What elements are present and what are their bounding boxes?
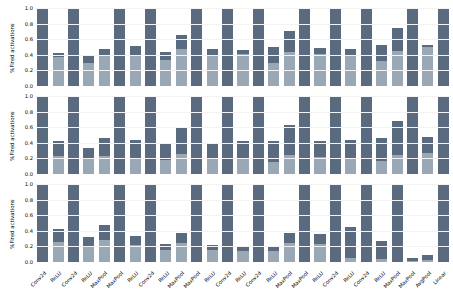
bar-slot — [143, 96, 158, 174]
bar[interactable] — [392, 184, 403, 262]
bar-slot — [312, 8, 327, 86]
bar[interactable] — [130, 235, 141, 262]
bar[interactable] — [83, 148, 94, 174]
x-tick-slot: Conv2d — [220, 269, 235, 299]
bar-slot — [312, 184, 327, 262]
bar-segment-upper — [191, 8, 202, 86]
bar-segment-upper — [160, 52, 171, 61]
bar[interactable] — [176, 127, 187, 174]
bar-slot — [97, 184, 112, 262]
bar[interactable] — [253, 184, 264, 262]
bar[interactable] — [376, 45, 387, 86]
bar-segment-lower — [207, 158, 218, 174]
y-tick-label: 0.6 — [25, 212, 33, 218]
bar-group-panel-1 — [35, 8, 451, 86]
bar[interactable] — [422, 255, 433, 262]
gridline — [35, 143, 451, 144]
bar[interactable] — [299, 8, 310, 86]
bar[interactable] — [284, 233, 295, 262]
bar-slot — [35, 96, 50, 174]
y-tick-label: 0.4 — [25, 52, 33, 58]
bar[interactable] — [222, 96, 233, 174]
bar[interactable] — [222, 8, 233, 86]
bar[interactable] — [268, 47, 279, 86]
bar[interactable] — [37, 8, 48, 86]
bar[interactable] — [376, 241, 387, 262]
bar[interactable] — [207, 245, 218, 262]
bar[interactable] — [160, 52, 171, 86]
bar[interactable] — [438, 8, 449, 86]
bar[interactable] — [407, 96, 418, 174]
bar-segment-upper — [99, 138, 110, 156]
bar-segment-lower — [176, 154, 187, 174]
bar[interactable] — [392, 28, 403, 86]
bar[interactable] — [68, 8, 79, 86]
bar[interactable] — [299, 184, 310, 262]
bar-segment-upper — [37, 184, 48, 262]
bar[interactable] — [422, 45, 433, 86]
bar[interactable] — [392, 121, 403, 174]
bar[interactable] — [438, 96, 449, 174]
bar[interactable] — [68, 96, 79, 174]
bar-segment-upper — [284, 233, 295, 243]
bar[interactable] — [222, 184, 233, 262]
y-tick-label: 0.0 — [25, 83, 33, 89]
bar-slot — [420, 8, 435, 86]
x-tick-label: ReLU — [126, 270, 139, 283]
bar[interactable] — [191, 96, 202, 174]
bar-segment-upper — [176, 233, 187, 243]
bar[interactable] — [114, 8, 125, 86]
bar[interactable] — [253, 96, 264, 174]
bar-segment-upper — [114, 96, 125, 174]
bar[interactable] — [83, 237, 94, 262]
bar[interactable] — [130, 140, 141, 174]
bar[interactable] — [37, 184, 48, 262]
bar[interactable] — [176, 35, 187, 86]
bar-slot — [266, 96, 281, 174]
bar-slot — [328, 96, 343, 174]
bar[interactable] — [68, 184, 79, 262]
bar[interactable] — [345, 140, 356, 174]
bar[interactable] — [314, 48, 325, 86]
bar[interactable] — [130, 46, 141, 86]
bar[interactable] — [345, 227, 356, 262]
bar[interactable] — [330, 184, 341, 262]
bar[interactable] — [145, 184, 156, 262]
bar[interactable] — [284, 125, 295, 174]
bar[interactable] — [361, 96, 372, 174]
bar[interactable] — [330, 96, 341, 174]
bar-slot — [112, 8, 127, 86]
gridline — [35, 55, 451, 56]
bar[interactable] — [145, 96, 156, 174]
bar[interactable] — [330, 8, 341, 86]
bar[interactable] — [37, 96, 48, 174]
bar-segment-upper — [145, 184, 156, 262]
bar[interactable] — [114, 96, 125, 174]
bar-segment-upper — [222, 184, 233, 262]
bar-segment-upper — [314, 234, 325, 244]
bar[interactable] — [407, 8, 418, 86]
bar[interactable] — [299, 96, 310, 174]
subplot-panel-1: %Fired activations 0.00.20.40.60.81.0 — [0, 4, 453, 92]
subplot-panel-2: %Fired activations 0.00.20.40.60.81.0 — [0, 92, 453, 180]
bar-segment-upper — [207, 143, 218, 159]
bar[interactable] — [268, 246, 279, 262]
bar[interactable] — [314, 234, 325, 262]
bar[interactable] — [114, 184, 125, 262]
bar-segment-lower — [284, 52, 295, 86]
bar[interactable] — [438, 184, 449, 262]
bar[interactable] — [191, 184, 202, 262]
bar-segment-upper — [176, 127, 187, 154]
bar[interactable] — [191, 8, 202, 86]
bar[interactable] — [361, 184, 372, 262]
x-tick-slot: Conv2d — [251, 269, 266, 299]
bar[interactable] — [176, 233, 187, 262]
bar-slot — [220, 184, 235, 262]
x-tick-label: Conv2d — [29, 270, 47, 288]
bar[interactable] — [237, 246, 248, 262]
y-tick-label: 0.2 — [25, 243, 33, 249]
bar[interactable] — [253, 8, 264, 86]
bar[interactable] — [145, 8, 156, 86]
bar-slot — [220, 8, 235, 86]
bar[interactable] — [361, 8, 372, 86]
